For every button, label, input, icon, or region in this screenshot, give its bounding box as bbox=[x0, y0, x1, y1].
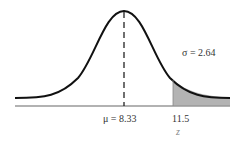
axis-variable-label: z bbox=[176, 126, 180, 137]
shaded-tail-region bbox=[173, 80, 230, 106]
mean-label: μ = 8.33 bbox=[103, 113, 137, 124]
sigma-label: σ = 2.64 bbox=[182, 47, 216, 58]
cutoff-label: 11.5 bbox=[172, 113, 189, 124]
normal-curve-chart bbox=[0, 0, 241, 148]
